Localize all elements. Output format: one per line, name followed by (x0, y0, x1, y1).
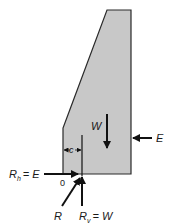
origin-label: 0 (60, 178, 65, 188)
wall-diagram: W E c Rh= E 0 R Rv= W (0, 0, 172, 224)
weight-label: W (91, 120, 103, 132)
horizontal-reaction-label: Rh= E (9, 168, 40, 182)
earth-pressure-label: E (156, 132, 164, 144)
vertical-reaction-label: Rv= W (79, 210, 114, 224)
resultant-label: R (54, 210, 62, 222)
eccentricity-label: c (69, 145, 74, 155)
